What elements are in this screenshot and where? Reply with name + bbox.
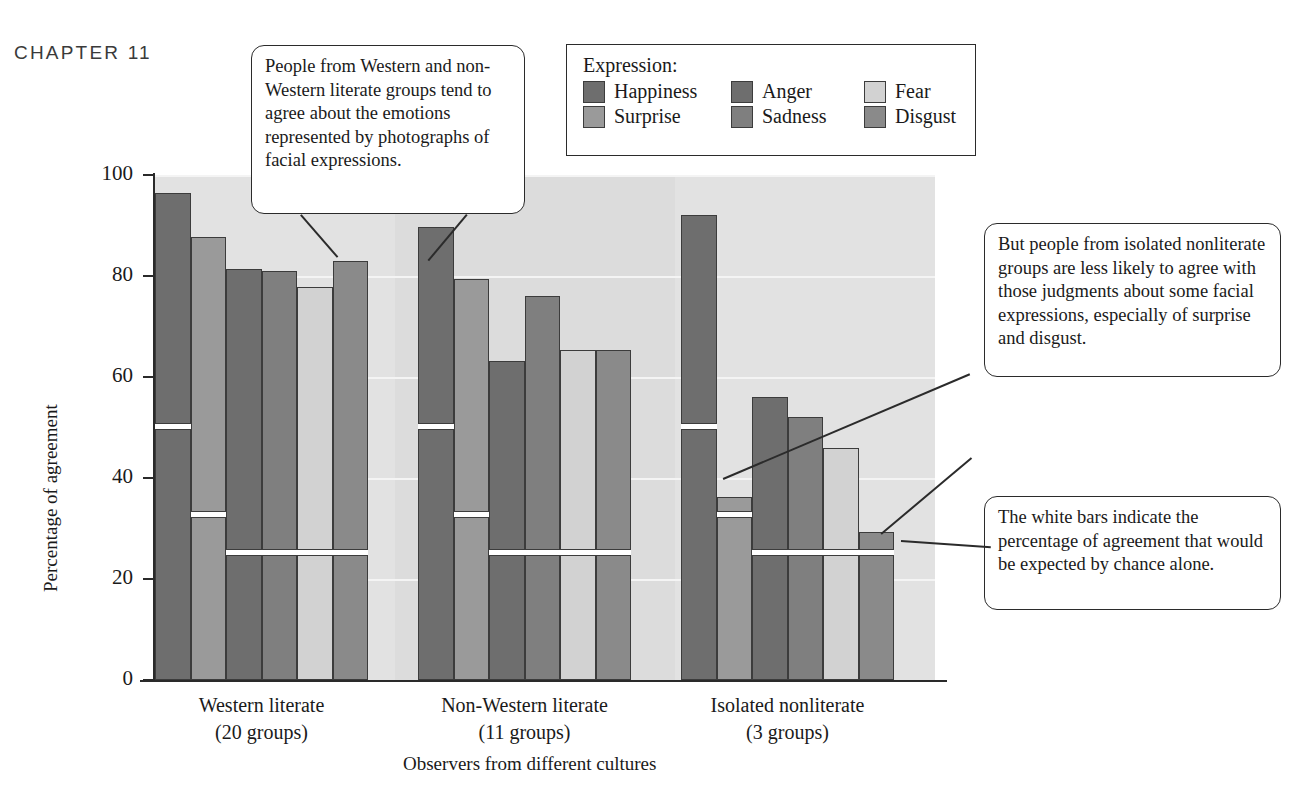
chance-level-marker xyxy=(717,511,753,518)
chance-level-marker xyxy=(596,549,632,556)
chance-level-marker xyxy=(262,549,298,556)
chance-level-marker xyxy=(297,549,333,556)
legend-item-happiness: Happiness xyxy=(583,80,731,103)
group-label-line1: Isolated nonliterate xyxy=(668,692,908,719)
y-tick-label: 60 xyxy=(73,363,133,388)
y-axis-label: Percentage of agreement xyxy=(40,404,62,592)
x-axis-line xyxy=(140,680,947,682)
y-tick-label: 40 xyxy=(73,464,133,489)
group-label-3: Isolated nonliterate(3 groups) xyxy=(668,692,908,746)
bar-sadness-group3 xyxy=(788,417,824,680)
x-axis-title: Observers from different cultures xyxy=(403,753,1298,775)
legend-swatch-icon xyxy=(583,81,605,103)
legend-title: Expression: xyxy=(583,54,975,77)
plot-area xyxy=(155,175,935,680)
chance-level-marker xyxy=(859,549,895,556)
y-tick-label: 0 xyxy=(73,666,133,691)
callout-white-bars-chance: The white bars indicate the percentage o… xyxy=(984,496,1281,610)
group-label-1: Western literate(20 groups) xyxy=(142,692,382,746)
chapter-header: CHAPTER 11 xyxy=(14,42,152,64)
bar-anger-group1 xyxy=(226,269,262,680)
callout-literate-agreement: People from Western and non-Western lite… xyxy=(251,45,525,214)
legend-item-sadness: Sadness xyxy=(731,105,864,128)
bar-fear-group3 xyxy=(823,448,859,680)
y-tick xyxy=(143,275,154,277)
figure-culture-emotion-agreement: CHAPTER 11 Percentage of agreement 02040… xyxy=(0,0,1298,799)
y-tick-label: 20 xyxy=(73,565,133,590)
legend-item-fear: Fear xyxy=(864,80,974,103)
chance-level-marker xyxy=(681,423,717,430)
bar-surprise-group2 xyxy=(454,279,490,680)
legend-swatch-icon xyxy=(864,106,886,128)
legend-item-label: Surprise xyxy=(614,105,681,128)
y-tick-label: 80 xyxy=(73,262,133,287)
callout-nonliterate-disagreement: But people from isolated nonliterate gro… xyxy=(984,223,1281,377)
bar-fear-group1 xyxy=(297,287,333,680)
legend: Expression: HappinessAngerFearSurpriseSa… xyxy=(566,44,976,156)
group-label-line2: (3 groups) xyxy=(668,719,908,746)
bar-disgust-group2 xyxy=(596,350,632,680)
y-tick xyxy=(143,174,154,176)
bar-sadness-group2 xyxy=(525,296,561,680)
bar-surprise-group3 xyxy=(717,497,753,680)
y-tick xyxy=(143,578,154,580)
chance-level-marker xyxy=(454,511,490,518)
legend-item-surprise: Surprise xyxy=(583,105,731,128)
bar-happiness-group3 xyxy=(681,215,717,680)
chance-level-marker xyxy=(525,549,561,556)
bar-sadness-group1 xyxy=(262,271,298,680)
y-tick xyxy=(143,477,154,479)
legend-swatch-icon xyxy=(864,81,886,103)
legend-item-anger: Anger xyxy=(731,80,864,103)
bar-happiness-group2 xyxy=(418,227,454,680)
bar-anger-group2 xyxy=(489,361,525,680)
chance-level-marker xyxy=(788,549,824,556)
group-label-2: Non-Western literate(11 groups) xyxy=(405,692,645,746)
chance-level-marker xyxy=(823,549,859,556)
bar-surprise-group1 xyxy=(191,237,227,680)
bar-fear-group2 xyxy=(560,350,596,680)
legend-item-label: Anger xyxy=(762,80,812,103)
group-label-line1: Non-Western literate xyxy=(405,692,645,719)
legend-swatch-icon xyxy=(731,106,753,128)
chance-level-marker xyxy=(560,549,596,556)
chance-level-marker xyxy=(226,549,262,556)
group-label-line1: Western literate xyxy=(142,692,382,719)
y-axis-line xyxy=(153,173,155,682)
bar-disgust-group1 xyxy=(333,261,369,680)
bar-disgust-group3 xyxy=(859,532,895,680)
bar-anger-group3 xyxy=(752,397,788,680)
bar-happiness-group1 xyxy=(155,193,191,680)
chance-level-marker xyxy=(752,549,788,556)
legend-item-label: Fear xyxy=(895,80,931,103)
legend-item-label: Sadness xyxy=(762,105,826,128)
y-tick xyxy=(143,679,154,681)
chance-level-marker xyxy=(155,423,191,430)
chance-level-marker xyxy=(191,511,227,518)
legend-swatch-icon xyxy=(583,106,605,128)
y-tick xyxy=(143,376,154,378)
y-tick-label: 100 xyxy=(73,161,133,186)
group-label-line2: (20 groups) xyxy=(142,719,382,746)
legend-swatch-icon xyxy=(731,81,753,103)
legend-items: HappinessAngerFearSurpriseSadnessDisgust xyxy=(583,80,975,128)
chance-level-marker xyxy=(333,549,369,556)
legend-item-label: Disgust xyxy=(895,105,956,128)
legend-item-disgust: Disgust xyxy=(864,105,974,128)
legend-item-label: Happiness xyxy=(614,80,697,103)
chance-level-marker xyxy=(489,549,525,556)
group-label-line2: (11 groups) xyxy=(405,719,645,746)
chance-level-marker xyxy=(418,423,454,430)
